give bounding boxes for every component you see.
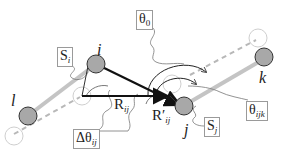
- node-i: [87, 55, 105, 73]
- ghost-node-l: [5, 127, 23, 145]
- r-prime-ij-main: R′: [152, 107, 165, 123]
- node-k: [255, 48, 273, 66]
- r-prime-ij-sub: ij: [165, 115, 170, 125]
- leader-theta0: [150, 27, 184, 64]
- s-i-sub: i: [68, 55, 71, 65]
- s-i-main: S: [60, 48, 68, 63]
- node-l: [19, 107, 37, 125]
- ghost-node-j: [163, 75, 181, 93]
- theta0-main: θ: [139, 11, 146, 26]
- arc-j: [146, 96, 156, 104]
- node-j: [175, 97, 193, 115]
- ghost-node-k: [249, 29, 267, 47]
- node-l-label: l: [11, 93, 15, 109]
- r-ij-main: R: [114, 96, 124, 112]
- node-j-label: j: [184, 122, 188, 138]
- r-ij-sub: ij: [124, 104, 129, 114]
- node-k-label: k: [259, 70, 266, 86]
- delta-theta-sub: ij: [92, 137, 97, 147]
- r-ij-label: Rij: [114, 97, 129, 114]
- arc-inner: [156, 78, 196, 96]
- delta-theta-main: Δθ: [76, 130, 92, 145]
- node-i-label: i: [97, 42, 101, 58]
- bond-j-k: [190, 60, 262, 102]
- s-j-main: S: [207, 118, 215, 133]
- r-prime-ij-label: R′ij: [152, 108, 170, 125]
- theta0-label: θ0: [136, 10, 153, 30]
- vector-r-prime-ij: [96, 64, 180, 105]
- s-i-label: Si: [57, 47, 73, 67]
- s-j-sub: j: [215, 125, 218, 135]
- theta-ijk-label: θijk: [246, 101, 268, 121]
- delta-theta-ij-label: Δθij: [73, 129, 100, 149]
- theta-ijk-sub: ijk: [256, 109, 265, 119]
- s-j-label: Sj: [204, 117, 220, 137]
- theta-ijk-main: θ: [249, 102, 256, 117]
- theta0-sub: 0: [146, 18, 151, 28]
- leader-s-j: [193, 106, 204, 126]
